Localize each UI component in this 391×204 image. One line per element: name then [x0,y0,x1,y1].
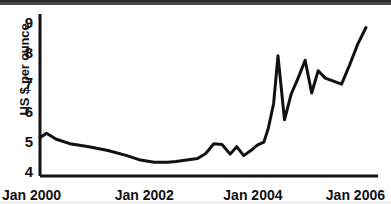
plot-area [0,0,391,204]
data-series-line [40,27,366,162]
chart-figure: US $ per ounce 456789 Jan 2000Jan 2002Ja… [0,0,391,204]
